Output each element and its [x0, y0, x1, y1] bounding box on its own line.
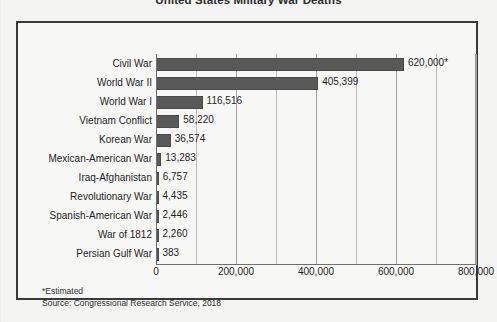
x-axis-tick-label: 400,000 [298, 266, 334, 277]
category-label: Iraq-Afghanistan [22, 172, 152, 183]
page-title: United States Military War Deaths [0, 0, 497, 6]
chart-frame: Civil WarWorld War IIWorld War IVietnam … [16, 21, 478, 300]
category-label: Spanish-American War [22, 210, 152, 221]
category-label: Persian Gulf War [22, 248, 152, 259]
plot-area: 620,000*405,399116,51658,22036,57413,283… [156, 54, 476, 265]
chart-page: United States Military War Deaths Civil … [0, 0, 497, 322]
category-label: Korean War [22, 134, 152, 145]
category-label: Vietnam Conflict [22, 115, 152, 126]
footnote-source: Source: Congressional Research Service, … [42, 297, 221, 309]
gridline [476, 54, 477, 265]
x-axis-ticks: 0200,000400,000600,000800,000 [156, 266, 476, 280]
x-axis-tick-label: 200,000 [218, 266, 254, 277]
category-axis-labels: Civil WarWorld War IIWorld War IVietnam … [22, 54, 152, 265]
x-axis-tick-label: 0 [153, 266, 159, 277]
category-label: World War II [22, 77, 152, 88]
category-label: Revolutionary War [22, 191, 152, 202]
category-label: World War I [22, 96, 152, 107]
category-label: Civil War [22, 58, 152, 69]
category-label: Mexican-American War [22, 153, 152, 164]
plot-border [156, 54, 476, 265]
x-axis-tick-label: 800,000 [458, 266, 494, 277]
footnote-estimated: *Estimated [42, 285, 221, 297]
x-axis-tick-label: 600,000 [378, 266, 414, 277]
footnotes: *Estimated Source: Congressional Researc… [42, 285, 221, 309]
category-label: War of 1812 [22, 229, 152, 240]
